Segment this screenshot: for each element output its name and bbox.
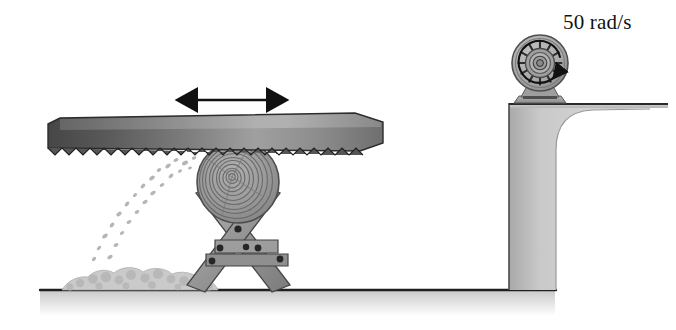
motor-base-shadow xyxy=(523,96,557,99)
motor-pulley xyxy=(512,35,568,103)
angular-velocity-label: 50 rad/s xyxy=(563,10,632,35)
physics-figure-bandsaw: 50 rad/s xyxy=(0,0,676,330)
motor-shaft xyxy=(537,60,544,67)
sawhorse-crossbar-lower xyxy=(206,254,288,266)
ground-shadow xyxy=(40,290,555,316)
saw-blade xyxy=(48,113,383,155)
sawdust-spray xyxy=(91,156,197,262)
step-wall xyxy=(509,103,668,290)
wall-body xyxy=(509,103,650,290)
figure-canvas xyxy=(0,0,676,330)
ground xyxy=(40,290,556,316)
wall-inner-corner xyxy=(556,109,650,290)
